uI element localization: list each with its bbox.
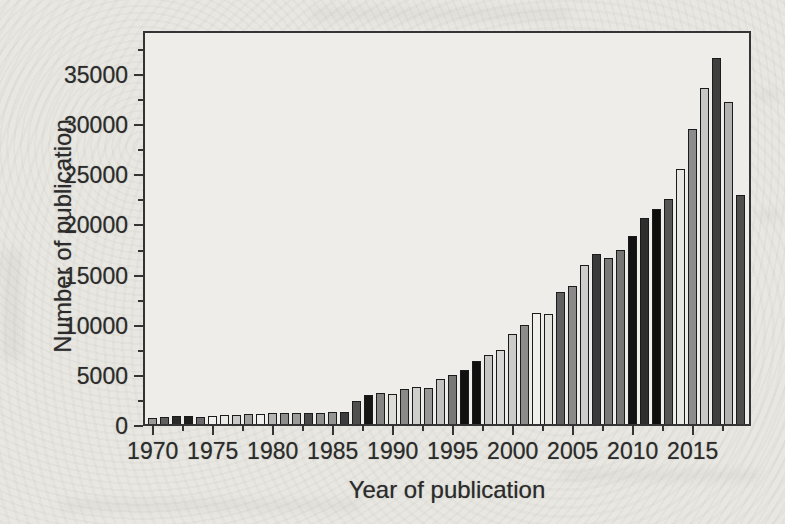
- bar-2008: [604, 258, 613, 424]
- y-minor-tick: [138, 199, 143, 201]
- x-minor-tick: [182, 426, 184, 431]
- y-minor-tick: [138, 350, 143, 352]
- bar-1981: [280, 413, 289, 424]
- x-minor-tick: [542, 426, 544, 431]
- bar-1972: [172, 416, 181, 424]
- y-major-tick: [134, 275, 143, 277]
- x-axis-title: Year of publication: [322, 476, 572, 504]
- scanned-figure-page: Number of publication Year of publicatio…: [0, 0, 785, 524]
- bar-1995: [448, 375, 457, 424]
- y-major-tick: [134, 425, 143, 427]
- bar-2001: [520, 325, 529, 424]
- bar-1986: [340, 412, 349, 424]
- bar-2011: [640, 218, 649, 424]
- y-major-tick: [134, 174, 143, 176]
- bar-1971: [160, 417, 169, 424]
- y-major-tick: [134, 375, 143, 377]
- y-major-tick: [134, 74, 143, 76]
- bar-1989: [376, 393, 385, 424]
- bar-2017: [712, 58, 721, 424]
- x-minor-tick: [242, 426, 244, 431]
- bar-1998: [484, 355, 493, 424]
- x-major-tick: [692, 426, 694, 435]
- y-major-tick: [134, 325, 143, 327]
- bar-2004: [556, 292, 565, 424]
- y-tick-label-10000: 10000: [50, 315, 128, 338]
- bleed-through-artifact: [310, 8, 570, 20]
- x-minor-tick: [482, 426, 484, 431]
- x-minor-tick: [662, 426, 664, 431]
- y-tick-label-0: 0: [50, 415, 128, 438]
- bar-2003: [544, 314, 553, 424]
- y-major-tick: [134, 124, 143, 126]
- x-major-tick: [332, 426, 334, 435]
- bleed-through-artifact: [60, 500, 360, 511]
- y-tick-label-5000: 5000: [50, 365, 128, 388]
- y-minor-tick: [138, 250, 143, 252]
- x-major-tick: [572, 426, 574, 435]
- y-minor-tick: [138, 149, 143, 151]
- bar-2015: [688, 129, 697, 424]
- bar-2005: [568, 286, 577, 424]
- bar-2000: [508, 334, 517, 424]
- y-minor-tick: [138, 300, 143, 302]
- bleed-through-artifact: [2, 250, 22, 360]
- y-tick-label-35000: 35000: [50, 64, 128, 87]
- y-minor-tick: [138, 99, 143, 101]
- x-minor-tick: [302, 426, 304, 431]
- bar-2013: [664, 199, 673, 424]
- bleed-through-artifact: [756, 210, 782, 220]
- y-minor-tick: [138, 49, 143, 51]
- bar-1973: [184, 416, 193, 424]
- y-minor-tick: [138, 400, 143, 402]
- x-minor-tick: [362, 426, 364, 431]
- bar-1988: [364, 395, 373, 424]
- bar-1991: [400, 389, 409, 424]
- bar-1983: [304, 413, 313, 424]
- x-minor-tick: [422, 426, 424, 431]
- bar-1993: [424, 388, 433, 424]
- x-minor-tick: [602, 426, 604, 431]
- x-major-tick: [272, 426, 274, 435]
- bar-1985: [328, 412, 337, 424]
- bar-1978: [244, 414, 253, 424]
- x-minor-tick: [722, 426, 724, 431]
- bar-2018: [724, 102, 733, 424]
- bar-2002: [532, 313, 541, 424]
- y-major-tick: [134, 224, 143, 226]
- bar-2016: [700, 88, 709, 424]
- bar-2010: [628, 236, 637, 424]
- y-tick-label-25000: 25000: [50, 164, 128, 187]
- y-tick-label-15000: 15000: [50, 265, 128, 288]
- bar-1997: [472, 361, 481, 424]
- bar-2014: [676, 169, 685, 424]
- bar-1976: [220, 415, 229, 424]
- bar-1980: [268, 413, 277, 424]
- bar-1984: [316, 413, 325, 424]
- plot-area: [143, 31, 751, 426]
- bar-1970: [148, 418, 157, 424]
- bar-2009: [616, 250, 625, 424]
- x-major-tick: [452, 426, 454, 435]
- y-tick-label-20000: 20000: [50, 214, 128, 237]
- bar-1987: [352, 401, 361, 424]
- bar-1974: [196, 417, 205, 424]
- bar-1992: [412, 387, 421, 424]
- bar-1994: [436, 379, 445, 424]
- x-major-tick: [152, 426, 154, 435]
- bar-1977: [232, 415, 241, 424]
- bleed-through-artifact: [756, 90, 780, 100]
- bar-1982: [292, 413, 301, 424]
- x-major-tick: [632, 426, 634, 435]
- bar-2006: [580, 265, 589, 424]
- bar-1999: [496, 350, 505, 424]
- x-major-tick: [392, 426, 394, 435]
- bar-1975: [208, 416, 217, 424]
- y-tick-label-30000: 30000: [50, 114, 128, 137]
- x-tick-label-2015: 2015: [658, 440, 728, 463]
- bar-1990: [388, 394, 397, 424]
- x-major-tick: [512, 426, 514, 435]
- bar-2007: [592, 254, 601, 424]
- bar-1996: [460, 370, 469, 424]
- bar-1979: [256, 414, 265, 424]
